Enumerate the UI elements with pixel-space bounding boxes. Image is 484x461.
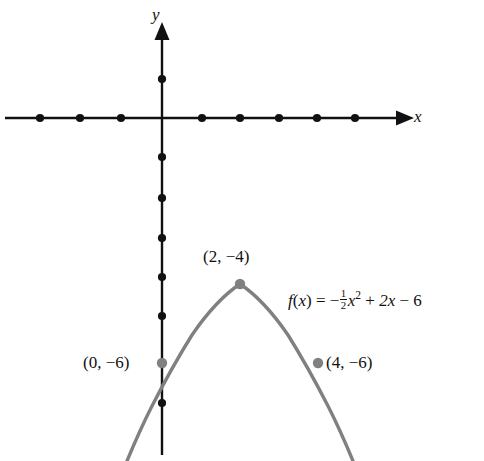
x-tick-dot [236, 114, 244, 122]
y-tick-dot [158, 312, 166, 320]
y-tick-dot [158, 273, 166, 281]
x-axis-arrowhead-icon [396, 111, 414, 126]
y-axis-arrowhead-icon [155, 22, 170, 40]
point-right-marker [313, 358, 323, 368]
x-tick-dot [351, 114, 359, 122]
y-axis-label: y [152, 6, 160, 23]
y-tick-dot [158, 194, 166, 202]
point-right-label: (4, −6) [326, 354, 372, 371]
equation-leading-minus: − [330, 291, 340, 310]
y-tick-dot [158, 75, 166, 83]
x-tick-dot [275, 114, 283, 122]
fraction-denominator: 2 [340, 300, 347, 311]
vertex-point-marker [235, 279, 245, 289]
y-intercept-point-marker [157, 358, 167, 368]
equation-variable: x [298, 291, 306, 310]
equation-equals: = [316, 291, 326, 310]
x-tick-dot [198, 114, 206, 122]
x-axis-label: x [414, 108, 422, 125]
equation-constant: 6 [413, 291, 422, 310]
x-tick-dot [36, 114, 44, 122]
y-tick-dot [158, 399, 166, 407]
x-tick-dot [117, 114, 125, 122]
y-tick-dot [158, 153, 166, 161]
equation-close-paren: ) [306, 291, 312, 310]
y-intercept-label: (0, −6) [83, 354, 129, 371]
equation-minus: − [399, 291, 409, 310]
equation-label: f(x) = −12x2 + 2x − 6 [288, 288, 422, 312]
y-tick-dot [158, 234, 166, 242]
graph-canvas [0, 0, 484, 461]
equation-linear-term: 2x [379, 291, 395, 310]
equation-plus: + [365, 291, 375, 310]
vertex-label: (2, −4) [203, 248, 249, 265]
x-tick-dot [76, 114, 84, 122]
quadratic-function-figure: y x (2, −4) (0, −6) (4, −6) f(x) = −12x2… [0, 0, 484, 461]
equation-x-squared-exponent: 2 [355, 289, 361, 302]
equation-fraction-one-half: 12 [340, 288, 347, 312]
x-tick-dot [313, 114, 321, 122]
